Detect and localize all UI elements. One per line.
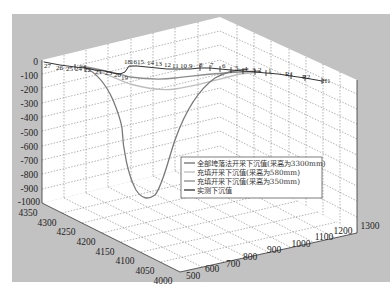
3d-subsidence-chart: 0 -100 -200 -300 -400 -500 -600 -700 -80… (0, 0, 392, 296)
svg-text:-900: -900 (21, 184, 39, 194)
svg-text:27: 27 (44, 62, 52, 70)
legend-item-full-caving: 全部垮落法开采下沉值(采高为3300mm) (184, 159, 326, 168)
svg-text:H1: H1 (322, 77, 331, 85)
svg-text:充填开采下沉值(采高为350mm): 充填开采下沉值(采高为350mm) (197, 177, 300, 186)
svg-text:4200: 4200 (77, 237, 96, 247)
svg-text:9: 9 (189, 62, 193, 70)
svg-text:12: 12 (164, 61, 172, 69)
svg-text:10: 10 (180, 62, 188, 70)
svg-text:900: 900 (267, 245, 282, 255)
svg-text:13: 13 (155, 60, 163, 68)
svg-text:15: 15 (137, 58, 145, 66)
svg-text:26: 26 (56, 64, 64, 72)
svg-text:2: 2 (258, 66, 262, 74)
svg-text:1: 1 (268, 67, 272, 75)
legend-item-filling-350: 充填开采下沉值(采高为350mm) (184, 177, 300, 186)
svg-text:全部垮落法开采下沉值(采高为3300mm): 全部垮落法开采下沉值(采高为3300mm) (197, 159, 326, 168)
svg-text:1100: 1100 (315, 232, 334, 242)
svg-text:800: 800 (243, 252, 258, 262)
svg-text:23: 23 (105, 69, 113, 77)
svg-text:4250: 4250 (57, 227, 76, 237)
svg-text:0: 0 (33, 57, 38, 67)
svg-text:-400: -400 (21, 113, 39, 123)
svg-text:3: 3 (252, 66, 256, 74)
svg-text:-100: -100 (21, 71, 39, 81)
svg-text:25: 25 (66, 65, 74, 73)
svg-text:4050: 4050 (136, 266, 155, 276)
svg-text:7: 7 (210, 61, 214, 69)
svg-text:1300: 1300 (361, 221, 380, 231)
svg-text:5: 5 (235, 64, 239, 72)
legend-item-filling-580: 充填开采下沉值(采高为580mm) (184, 168, 300, 177)
svg-text:11: 11 (172, 62, 179, 70)
svg-text:R1: R1 (285, 70, 294, 78)
svg-text:4: 4 (244, 65, 248, 73)
svg-text:1000: 1000 (292, 239, 311, 249)
svg-text:14: 14 (147, 59, 155, 67)
svg-text:600: 600 (205, 264, 220, 274)
svg-text:4150: 4150 (96, 247, 115, 257)
svg-text:1200: 1200 (334, 226, 353, 236)
svg-text:-600: -600 (21, 142, 39, 152)
svg-text:-800: -800 (21, 170, 39, 180)
svg-text:21: 21 (95, 68, 103, 76)
svg-text:700: 700 (226, 259, 241, 269)
svg-text:实测下沉值: 实测下沉值 (197, 186, 232, 195)
legend: 全部垮落法开采下沉值(采高为3300mm) 充填开采下沉值(采高为580mm) … (181, 157, 326, 198)
svg-text:R2: R2 (302, 73, 311, 81)
svg-text:4000: 4000 (154, 276, 173, 286)
svg-text:22: 22 (84, 66, 92, 74)
svg-text:8: 8 (199, 61, 203, 69)
svg-text:4300: 4300 (38, 218, 57, 228)
svg-text:充填开采下沉值(采高为580mm): 充填开采下沉值(采高为580mm) (197, 168, 300, 177)
svg-text:19: 19 (121, 74, 129, 82)
svg-text:-300: -300 (21, 99, 39, 109)
svg-text:6: 6 (222, 62, 226, 70)
svg-text:-700: -700 (21, 156, 39, 166)
svg-text:4100: 4100 (116, 256, 135, 266)
z-axis-ticks: 0 -100 -200 -300 -400 -500 -600 -700 -80… (18, 57, 40, 207)
svg-text:-1000: -1000 (18, 197, 40, 207)
svg-text:500: 500 (186, 271, 201, 281)
svg-text:-200: -200 (21, 85, 39, 95)
svg-text:4350: 4350 (19, 208, 38, 218)
svg-text:-500: -500 (21, 128, 39, 138)
svg-text:24: 24 (75, 65, 83, 73)
